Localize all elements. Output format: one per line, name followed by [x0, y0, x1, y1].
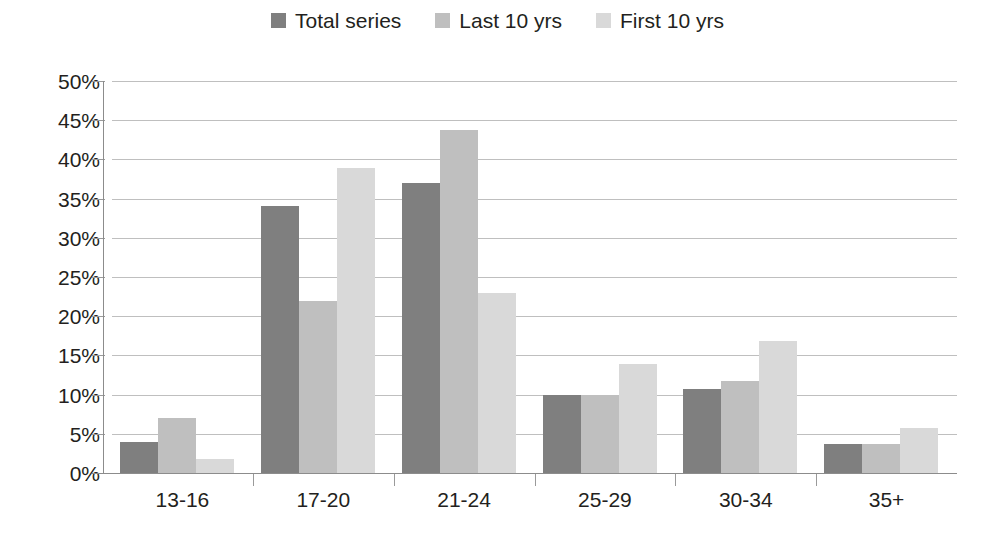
- bar[interactable]: [120, 442, 158, 473]
- bar[interactable]: [900, 428, 938, 473]
- legend-swatch-icon: [435, 13, 450, 28]
- bar[interactable]: [299, 301, 337, 473]
- bar[interactable]: [619, 364, 657, 473]
- x-axis-line: [92, 473, 957, 474]
- x-axis-labels: 13-1617-2021-2425-2930-3435+: [112, 488, 957, 528]
- x-tick-label: 21-24: [437, 488, 491, 512]
- bar[interactable]: [337, 168, 375, 473]
- plot-area: [112, 81, 957, 473]
- category-separator: [816, 474, 817, 486]
- x-tick-label: 13-16: [156, 488, 210, 512]
- x-tick-label: 30-34: [719, 488, 773, 512]
- x-tick-label: 17-20: [296, 488, 350, 512]
- bar[interactable]: [261, 206, 299, 473]
- legend-entry[interactable]: Last 10 yrs: [435, 10, 562, 31]
- plot-wrapper: 0%5%10%15%20%25%30%35%40%45%50% 13-1617-…: [0, 56, 995, 554]
- bar-chart: Total seriesLast 10 yrsFirst 10 yrs 0%5%…: [0, 0, 995, 554]
- bar-group: [120, 81, 234, 473]
- bar-group: [543, 81, 657, 473]
- bar[interactable]: [158, 418, 196, 473]
- legend-label: Last 10 yrs: [459, 10, 562, 31]
- category-separator: [535, 474, 536, 486]
- legend-entry[interactable]: Total series: [271, 10, 401, 31]
- bar[interactable]: [683, 389, 721, 473]
- y-axis-line: [103, 81, 104, 474]
- bar[interactable]: [824, 444, 862, 473]
- x-tick-label: 35+: [869, 488, 905, 512]
- bar[interactable]: [543, 395, 581, 473]
- legend-label: First 10 yrs: [620, 10, 724, 31]
- category-separator: [675, 474, 676, 486]
- bar[interactable]: [196, 459, 234, 473]
- bar[interactable]: [581, 395, 619, 473]
- bar[interactable]: [440, 130, 478, 473]
- bar[interactable]: [759, 341, 797, 473]
- bar-group: [261, 81, 375, 473]
- bar[interactable]: [721, 381, 759, 474]
- legend-entry[interactable]: First 10 yrs: [596, 10, 724, 31]
- legend-swatch-icon: [596, 13, 611, 28]
- bar-group: [402, 81, 516, 473]
- bar-group: [824, 81, 938, 473]
- chart-legend: Total seriesLast 10 yrsFirst 10 yrs: [0, 10, 995, 31]
- y-axis-labels: 0%5%10%15%20%25%30%35%40%45%50%: [34, 56, 100, 456]
- x-tick-label: 25-29: [578, 488, 632, 512]
- bar-group: [683, 81, 797, 473]
- category-separator: [253, 474, 254, 486]
- bars-layer: [112, 81, 957, 473]
- bar[interactable]: [862, 444, 900, 473]
- legend-label: Total series: [295, 10, 401, 31]
- legend-swatch-icon: [271, 13, 286, 28]
- bar[interactable]: [402, 183, 440, 473]
- category-separator: [394, 474, 395, 486]
- bar[interactable]: [478, 293, 516, 473]
